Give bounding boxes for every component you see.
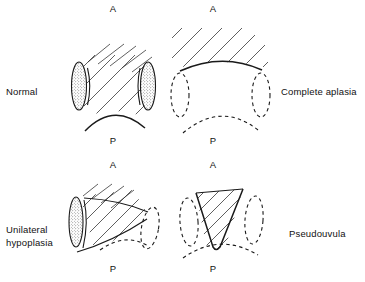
- hypoplasia-left-mass: [69, 197, 86, 248]
- aplasia-posterior-arch: [183, 116, 258, 133]
- orientation-anterior-unilateral-hypoplasia: A: [106, 160, 120, 170]
- panel-label-pseudouvula: Pseudouvula: [289, 228, 346, 241]
- panel-pseudouvula: [168, 158, 273, 263]
- orientation-posterior-normal: P: [106, 136, 120, 146]
- orientation-posterior-unilateral-hypoplasia: P: [106, 264, 120, 274]
- orientation-anterior-normal: A: [106, 4, 120, 14]
- pseudouvula-wedge-top: [196, 189, 243, 193]
- panel-unilateral-hypoplasia: [55, 165, 165, 275]
- panel-label-unilateral-hypoplasia: Unilateral hypoplasia: [6, 224, 53, 249]
- hatch-aplasia: [150, 0, 285, 130]
- pseudouvula-left-mass-outline: [178, 197, 199, 246]
- panel-label-complete-aplasia: Complete aplasia: [281, 86, 357, 99]
- orientation-anterior-pseudouvula: A: [206, 160, 220, 170]
- hypoplasia-lower-contour: [77, 219, 147, 252]
- aplasia-anterior-arch: [180, 61, 262, 71]
- normal-posterior-arch: [85, 115, 145, 131]
- aplasia-left-mass-outline: [171, 73, 189, 117]
- orientation-posterior-pseudouvula: P: [206, 264, 220, 274]
- pseudouvula-wedge-outline: [196, 189, 243, 250]
- panel-label-normal: Normal: [6, 86, 38, 99]
- figure-root: Normal Complete aplasia Unilateral hypop…: [0, 0, 365, 282]
- pseudouvula-right-mass-outline: [243, 195, 264, 244]
- orientation-posterior-complete-aplasia: P: [206, 136, 220, 146]
- panel-complete-aplasia: [150, 0, 285, 133]
- aplasia-right-mass-outline: [252, 73, 270, 117]
- orientation-anterior-complete-aplasia: A: [206, 4, 220, 14]
